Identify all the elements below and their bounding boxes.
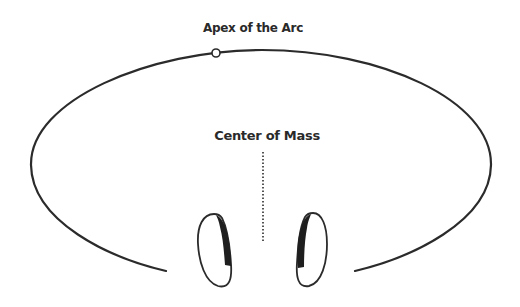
center-of-mass-label: Center of Mass [7, 128, 520, 143]
right-foot-icon [297, 213, 327, 286]
arc-path [31, 50, 491, 271]
apex-label: Apex of the Arc [0, 21, 513, 35]
left-foot-icon [198, 214, 231, 286]
apex-marker-icon [212, 49, 220, 57]
diagram-svg [0, 0, 520, 307]
diagram-canvas: Apex of the Arc Center of Mass [0, 0, 520, 307]
